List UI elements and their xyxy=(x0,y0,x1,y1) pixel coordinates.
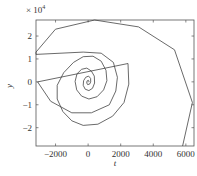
x-tick-label: 0 xyxy=(86,149,91,159)
x-tick-label: 4000 xyxy=(144,149,163,159)
y-axis-label: y xyxy=(4,84,14,89)
y-multiplier-exponent: 4 xyxy=(42,4,45,10)
y-multiplier-label: × 104 xyxy=(26,4,45,15)
y-tick-label: −1 xyxy=(22,100,32,110)
x-tick-label: 6000 xyxy=(177,149,196,159)
chart-svg: −20000200040006000 −2−1012 × 104 t y xyxy=(0,0,197,176)
x-tick-label: −2000 xyxy=(44,149,68,159)
y-multiplier-base: × 10 xyxy=(26,5,43,15)
y-tick-label: −2 xyxy=(22,123,32,133)
spiral-line xyxy=(36,20,192,146)
y-tick-label: 1 xyxy=(28,54,33,64)
x-axis-label: t xyxy=(114,158,117,168)
plot-frame xyxy=(36,20,194,146)
x-axis-ticks: −20000200040006000 xyxy=(44,20,195,159)
y-tick-label: 0 xyxy=(28,77,33,87)
y-tick-label: 2 xyxy=(28,31,33,41)
